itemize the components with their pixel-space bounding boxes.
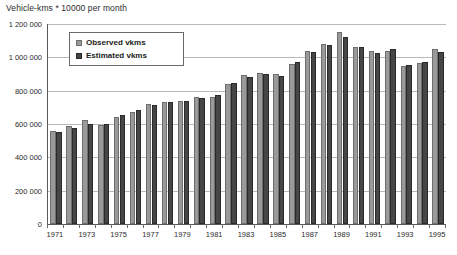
x-axis-tick (318, 224, 319, 228)
bar-observed (130, 112, 135, 224)
bar-observed (432, 49, 437, 224)
y-axis-tick-label: 1 200 000 (0, 20, 42, 29)
x-axis-tick-label: 1971 (47, 230, 64, 239)
y-axis-tick-label: 400 000 (0, 153, 42, 162)
bar-estimated (215, 95, 220, 224)
x-axis-tick (222, 224, 223, 228)
bar-estimated (390, 49, 395, 224)
y-axis-tick-label: 200 000 (0, 186, 42, 195)
gridline (48, 24, 446, 25)
x-axis-tick-label: 1979 (174, 230, 191, 239)
bar-observed (50, 131, 55, 224)
bar-observed (114, 117, 119, 225)
bar-estimated (168, 102, 173, 224)
bar-observed (417, 63, 422, 224)
bar-estimated (359, 47, 364, 225)
legend-item-observed: Observed vkms (76, 36, 179, 49)
bar-observed (98, 125, 103, 224)
x-axis-tick (397, 224, 398, 228)
bar-estimated (422, 62, 427, 225)
bar-observed (273, 74, 278, 224)
legend-swatch-dark-icon (76, 53, 82, 59)
bar-observed (257, 73, 262, 224)
x-axis-tick (429, 224, 430, 228)
bar-observed (146, 104, 151, 224)
bar-estimated (88, 124, 93, 224)
bar-estimated (136, 110, 141, 224)
bar-observed (321, 44, 326, 224)
bar-estimated (343, 37, 348, 224)
x-axis-tick (381, 224, 382, 228)
x-axis-tick (206, 224, 207, 228)
x-axis-tick (302, 224, 303, 228)
bar-observed (401, 66, 406, 224)
chart-title: Vehicle-kms * 10000 per month (6, 3, 127, 13)
x-axis-tick (63, 224, 64, 228)
bar-observed (225, 84, 230, 224)
bar-estimated (406, 65, 411, 224)
bar-observed (369, 51, 374, 224)
bar-estimated (231, 83, 236, 224)
x-axis-tick-label: 1983 (238, 230, 255, 239)
bar-estimated (56, 132, 61, 225)
legend-label-estimated: Estimated vkms (86, 51, 147, 60)
bar-estimated (263, 74, 268, 224)
x-axis-tick (349, 224, 350, 228)
x-axis-tick (413, 224, 414, 228)
x-axis-tick (158, 224, 159, 228)
bar-estimated (184, 101, 189, 224)
x-axis-tick-label: 1977 (142, 230, 159, 239)
bar-observed (305, 51, 310, 224)
legend-item-estimated: Estimated vkms (76, 49, 179, 62)
x-axis-tick (238, 224, 239, 228)
chart-legend: Observed vkms Estimated vkms (69, 32, 184, 66)
x-axis-tick (143, 224, 144, 228)
bar-observed (337, 32, 342, 224)
y-axis-tick-label: 1 000 000 (0, 53, 42, 62)
bar-observed (241, 75, 246, 224)
x-axis-tick-label: 1991 (365, 230, 382, 239)
bar-estimated (375, 53, 380, 224)
bar-estimated (120, 115, 125, 224)
x-axis-tick-label: 1993 (397, 230, 414, 239)
x-axis-tick-label: 1975 (110, 230, 127, 239)
x-axis-tick-label: 1973 (78, 230, 95, 239)
bar-observed (210, 97, 215, 225)
x-axis-tick (95, 224, 96, 228)
bar-estimated (104, 124, 109, 225)
x-axis-tick-label: 1989 (333, 230, 350, 239)
bar-observed (289, 64, 294, 224)
x-axis-tick (445, 224, 446, 228)
bar-estimated (327, 45, 332, 224)
x-axis-tick-label: 1981 (206, 230, 223, 239)
bar-observed (194, 97, 199, 224)
bar-observed (353, 47, 358, 224)
y-axis-tick-label: 0 (0, 220, 42, 229)
x-axis-tick (79, 224, 80, 228)
y-axis-tick-label: 800 000 (0, 86, 42, 95)
bar-estimated (152, 105, 157, 224)
x-axis-tick (127, 224, 128, 228)
x-axis-tick-label: 1987 (301, 230, 318, 239)
x-axis-tick-label: 1985 (269, 230, 286, 239)
x-axis-tick (190, 224, 191, 228)
x-axis-tick (174, 224, 175, 228)
y-axis-tick-label: 600 000 (0, 120, 42, 129)
legend-swatch-light-icon (76, 40, 82, 46)
x-axis-tick (254, 224, 255, 228)
bar-observed (82, 120, 87, 224)
bar-observed (178, 101, 183, 224)
legend-label-observed: Observed vkms (86, 38, 146, 47)
bar-estimated (438, 52, 443, 225)
x-axis-tick (47, 224, 48, 228)
vehicle-kms-bar-chart: Vehicle-kms * 10000 per month 0200 00040… (0, 0, 457, 255)
bar-observed (66, 126, 71, 224)
x-axis-tick (334, 224, 335, 228)
bar-estimated (279, 76, 284, 224)
x-axis-tick (286, 224, 287, 228)
bar-estimated (247, 77, 252, 224)
x-axis-tick (365, 224, 366, 228)
x-axis-tick-label: 1995 (429, 230, 446, 239)
bar-estimated (295, 62, 300, 225)
bar-estimated (199, 98, 204, 224)
